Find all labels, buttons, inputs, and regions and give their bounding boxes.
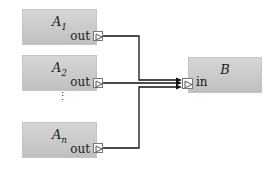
block-a2[interactable]: A2 out: [22, 55, 97, 91]
triangle-right-icon: [184, 80, 193, 89]
in-port-b[interactable]: [182, 78, 193, 89]
ellipsis-vertical: ⋮: [57, 94, 61, 100]
wire-an-to-b: [103, 87, 176, 148]
triangle-right-icon: [95, 145, 103, 153]
block-a1[interactable]: A1 out: [22, 9, 97, 45]
out-port-an[interactable]: [93, 143, 103, 153]
wire-a1-to-b: [103, 36, 176, 80]
out-port-a1[interactable]: [93, 31, 103, 41]
triangle-right-icon: [95, 33, 103, 41]
block-a1-port-label: out: [70, 29, 90, 43]
block-b-port-label: in: [196, 75, 208, 89]
triangle-right-icon: [95, 80, 103, 88]
block-a2-port-label: out: [70, 75, 90, 89]
block-b[interactable]: B in: [188, 57, 262, 93]
block-an-port-label: out: [70, 142, 90, 156]
out-port-a2[interactable]: [93, 78, 103, 88]
block-an[interactable]: An out: [22, 122, 97, 158]
